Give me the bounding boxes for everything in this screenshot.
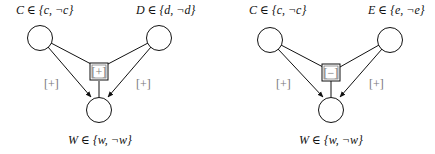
node-c (258, 28, 283, 53)
diagram-2: C ∈ {c, ¬c} E ∈ {e, ¬e} [−] [+] [+] W ∈ … (249, 3, 425, 147)
edge-left-sign: [+] (44, 77, 59, 91)
interaction-line-e (340, 45, 379, 67)
node-c (28, 26, 53, 51)
interaction-sign: [+] (92, 65, 107, 79)
node-d (147, 26, 172, 51)
node-w-label: W ∈ {w, ¬w} (68, 133, 132, 147)
edge-left-sign: [+] (276, 77, 291, 91)
node-e (378, 28, 403, 53)
interaction-line-c (51, 43, 91, 64)
node-w-label: W ∈ {w, ¬w} (299, 133, 363, 147)
node-c-label: C ∈ {c, ¬c} (249, 3, 306, 17)
edge-right-sign: [+] (136, 77, 151, 91)
node-w (319, 98, 344, 123)
diagram-canvas: C ∈ {c, ¬c} D ∈ {d, ¬d} [+] [+] [+] W ∈ … (0, 0, 435, 154)
node-c-label: C ∈ {c, ¬c} (16, 3, 73, 17)
interaction-line-c (281, 45, 323, 67)
node-w (87, 98, 112, 123)
diagram-1: C ∈ {c, ¬c} D ∈ {d, ¬d} [+] [+] [+] W ∈ … (16, 3, 195, 147)
interaction-line-d (108, 43, 148, 64)
node-d-label: D ∈ {d, ¬d} (135, 3, 195, 17)
interaction-sign: [−] (324, 66, 339, 80)
node-e-label: E ∈ {e, ¬e} (367, 3, 425, 17)
edge-right-sign: [+] (369, 77, 384, 91)
